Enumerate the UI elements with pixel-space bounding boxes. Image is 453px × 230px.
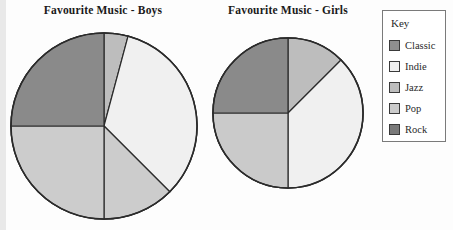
pie-slice-rock [11,33,104,126]
legend-item-label: Classic [405,40,435,51]
legend-item-pop: Pop [389,98,442,119]
pie-slice-classic [11,126,104,219]
legend-swatch-icon [389,61,400,72]
pie-slice-rock [213,38,288,113]
legend-item-label: Rock [405,124,427,135]
legend-item-jazz: Jazz [389,77,442,98]
legend-item-indie: Indie [389,56,442,77]
pie-chart-boys [8,30,200,222]
legend-item-label: Jazz [405,82,423,93]
legend-item-label: Pop [405,103,421,114]
legend-title: Key [391,17,409,29]
legend-swatch-icon [389,103,400,114]
legend-item-classic: Classic [389,35,442,56]
pie-girls-svg [210,35,366,191]
legend-swatch-icon [389,40,400,51]
pie-boys-svg [8,30,200,222]
legend-box: Key ClassicIndieJazzPopRock [382,10,446,142]
page-left-gutter [0,0,6,230]
chart-title-girls: Favourite Music - Girls [212,4,364,16]
legend-swatch-icon [389,82,400,93]
chart-title-boys: Favourite Music - Boys [20,4,186,16]
legend-swatch-icon [389,124,400,135]
legend-items: ClassicIndieJazzPopRock [389,35,442,140]
pie-chart-girls [210,35,366,191]
pie-slice-pop [213,113,288,188]
legend-item-rock: Rock [389,119,442,140]
legend-item-label: Indie [405,61,427,72]
pie-chart-figure: Favourite Music - Boys Favourite Music -… [0,0,453,230]
